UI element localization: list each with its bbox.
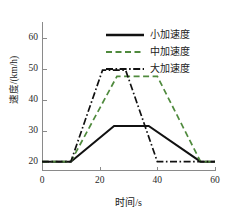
legend-item-2[interactable]: 大加速度 — [106, 60, 218, 77]
speed-profile-chart-figure: 20 30 40 50 60 0 20 40 60 时间/s 速度/(km/h)… — [0, 0, 230, 218]
x-axis-title: 时间/s — [42, 194, 215, 209]
y-axis-title: 速度/(km/h) — [6, 30, 20, 130]
legend-swatch-dashdot-black — [106, 64, 144, 74]
legend-item-0[interactable]: 小加速度 — [106, 26, 218, 43]
x-tick-label: 60 — [210, 176, 220, 186]
x-tick-label: 0 — [40, 176, 45, 186]
legend-label: 大加速度 — [150, 64, 190, 74]
series-line-2 — [42, 70, 215, 162]
x-tick-label: 40 — [153, 176, 163, 186]
x-tick-label: 20 — [95, 176, 105, 186]
x-tick-mark — [215, 167, 216, 171]
y-tick-label: 20 — [29, 157, 39, 167]
y-tick-label: 30 — [29, 126, 39, 136]
legend-swatch-solid-black — [106, 30, 144, 40]
chart-legend: 小加速度 中加速度 大加速度 — [106, 26, 218, 77]
legend-label: 中加速度 — [150, 47, 190, 57]
legend-swatch-dashed-green — [106, 47, 144, 57]
y-tick-label: 40 — [29, 95, 39, 105]
x-axis-tick-labels: 0 20 40 60 — [42, 176, 215, 188]
series-line-1 — [42, 76, 215, 161]
legend-item-1[interactable]: 中加速度 — [106, 43, 218, 60]
y-tick-label: 60 — [29, 33, 39, 43]
series-line-0 — [42, 126, 215, 162]
legend-label: 小加速度 — [150, 30, 190, 40]
y-tick-label: 50 — [29, 64, 39, 74]
